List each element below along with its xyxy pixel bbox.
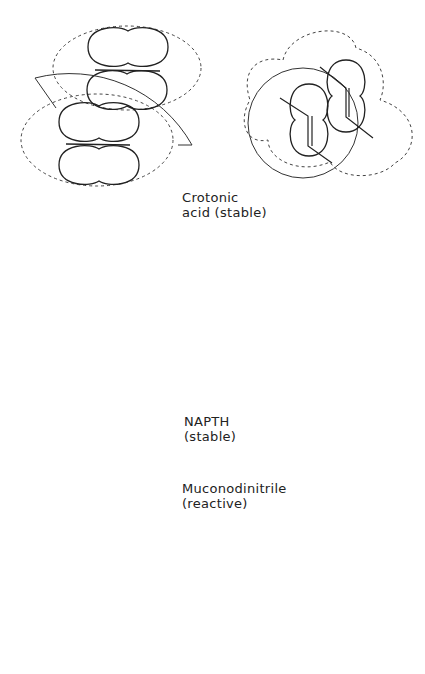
orbital-overlap-figure	[0, 0, 425, 674]
crotonic-acid-label-line1: Crotonic	[182, 190, 267, 205]
crotonic-acid-label: Crotonic acid (stable)	[182, 190, 267, 220]
crotonic-acid-label-line2: acid (stable)	[182, 205, 267, 220]
napth-label-line1: NAPTH	[184, 414, 236, 429]
muconodinitrile-label-line2: (reactive)	[182, 496, 287, 511]
crotonic-top-view	[244, 31, 412, 178]
crotonic-side-view	[21, 26, 201, 186]
muconodinitrile-label: Muconodinitrile (reactive)	[182, 481, 287, 511]
napth-label: NAPTH (stable)	[184, 414, 236, 444]
muconodinitrile-label-line1: Muconodinitrile	[182, 481, 287, 496]
napth-label-line2: (stable)	[184, 429, 236, 444]
